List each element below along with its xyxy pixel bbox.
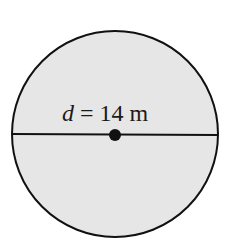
diameter-value: 14 [100,100,124,126]
center-point [109,129,121,141]
diameter-label: d = 14 m [62,100,149,126]
circle-diagram: d = 14 m [0,0,237,248]
diameter-unit: m [124,100,149,126]
equals-sign: = [74,100,100,126]
